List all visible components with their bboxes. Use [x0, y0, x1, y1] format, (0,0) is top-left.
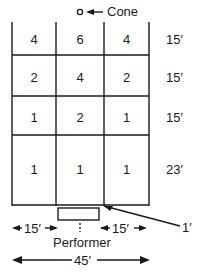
row-depth: 15′	[166, 111, 183, 124]
grid-cell: 6	[56, 33, 104, 46]
grid-cell: 1	[12, 163, 56, 176]
performer-label: Performer	[53, 236, 111, 249]
grid-cell: 4	[104, 33, 149, 46]
row-depth: 23′	[166, 163, 183, 176]
left-dimension: 15′	[24, 222, 41, 235]
row-depth: 15′	[166, 33, 183, 46]
grid-cell: 4	[56, 71, 104, 84]
grid-cell: 2	[12, 71, 56, 84]
right-dimension: 15′	[112, 222, 129, 235]
grid-cell: 2	[104, 71, 149, 84]
cone-icon	[77, 9, 82, 14]
grid-cell: 1	[56, 163, 104, 176]
grid-cell: 2	[56, 111, 104, 124]
grid-cell: 1	[12, 111, 56, 124]
grid-cell: 1	[104, 163, 149, 176]
grid-cell: 1	[104, 111, 149, 124]
total-dimension: 45′	[74, 254, 91, 267]
gap-label: 1′	[182, 221, 192, 234]
row-depth: 15′	[166, 71, 183, 84]
grid-cell: 4	[12, 33, 56, 46]
cone-label: Cone	[107, 5, 138, 18]
